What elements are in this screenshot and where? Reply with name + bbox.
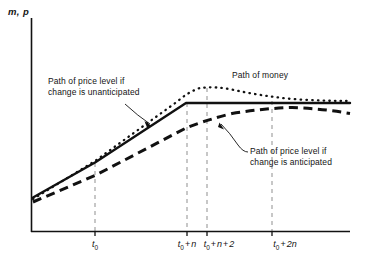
x-tick-label-t02n: t0+2n xyxy=(273,239,296,251)
y-axis-label: m, p xyxy=(8,6,29,17)
annotation-unanticipated-line2: change is unanticipated xyxy=(48,87,140,97)
economics-line-chart xyxy=(0,0,380,271)
annotation-path-of-money: Path of money xyxy=(232,70,288,81)
x-tick-label-t0n2: t0+n+2 xyxy=(204,239,235,251)
annotation-unanticipated: Path of price level if change is unantic… xyxy=(48,76,176,98)
annotation-unanticipated-line1: Path of price level if xyxy=(48,76,124,86)
x-axis-tick-marks xyxy=(95,232,272,236)
x-tick-label-t0n: t0+n xyxy=(178,239,196,251)
annotation-anticipated-line1: Path of price level if xyxy=(250,146,326,156)
leader-line-anticipated xyxy=(221,124,248,152)
leader-line-unanticipated xyxy=(125,104,150,124)
annotation-anticipated-line2: change is anticipated xyxy=(250,157,332,167)
vertical-guide-lines xyxy=(95,88,272,232)
annotation-anticipated: Path of price level if change is anticip… xyxy=(250,146,374,168)
x-tick-label-t0: t0 xyxy=(92,239,98,251)
